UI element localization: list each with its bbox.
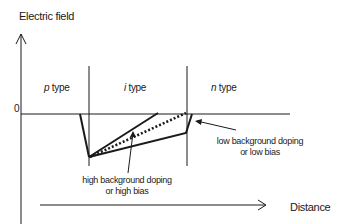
zero-label: 0 xyxy=(14,103,19,115)
low-doping-annotation: low background doping or low bias xyxy=(205,136,315,158)
region-n-label: n type xyxy=(211,82,236,94)
intermediate-profile xyxy=(90,113,186,157)
high-doping-profile xyxy=(89,113,158,157)
region-p-label: p type xyxy=(44,82,69,94)
p-depletion-edge xyxy=(80,114,89,157)
high-pointer-arrow-icon xyxy=(130,131,136,137)
y-axis-label: Electric field xyxy=(19,10,74,22)
low-doping-profile xyxy=(89,114,192,157)
high-doping-annotation: high background doping or high bias xyxy=(72,175,182,197)
low-pointer-arrow-icon xyxy=(195,119,202,125)
x-axis-label: Distance xyxy=(290,201,330,213)
region-i-label: i type xyxy=(124,82,146,94)
low-pointer xyxy=(197,121,236,130)
